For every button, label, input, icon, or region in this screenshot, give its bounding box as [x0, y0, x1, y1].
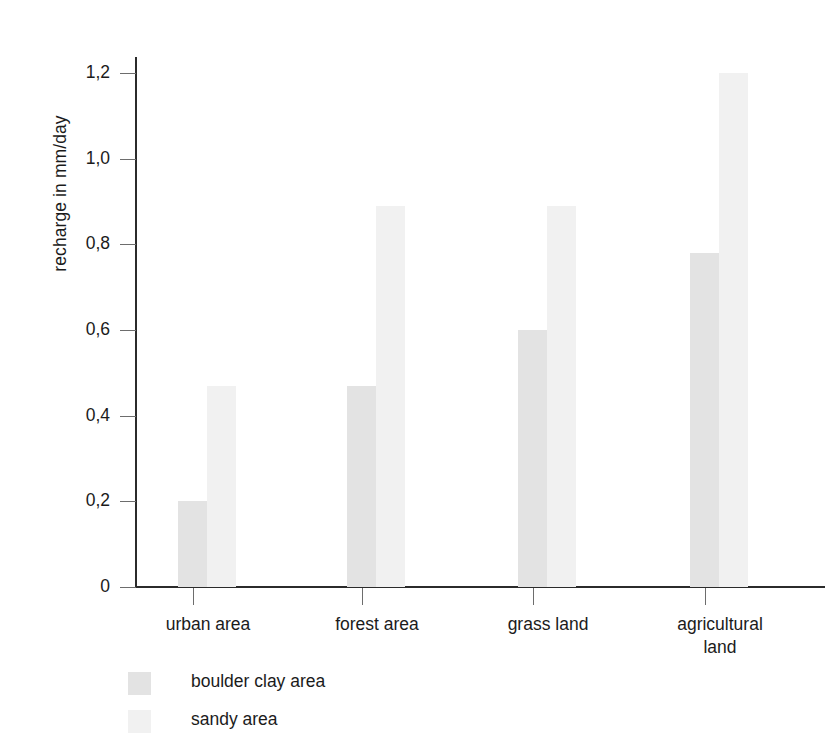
- x-axis-label-line: forest area: [282, 613, 472, 636]
- x-axis-label-agricultural-land: agriculturalland: [625, 613, 815, 659]
- y-axis-tick: [120, 587, 136, 588]
- x-axis-label-forest-area: forest area: [282, 613, 472, 636]
- x-axis-label-line: agricultural: [625, 613, 815, 636]
- bar-urban-area-boulder-clay-area: [178, 501, 207, 587]
- x-axis-label-line: grass land: [453, 613, 643, 636]
- x-axis-label-line: urban area: [113, 613, 303, 636]
- legend-swatch-icon: [128, 710, 151, 733]
- x-axis-label-line: land: [625, 636, 815, 659]
- bars-layer: [0, 0, 832, 587]
- bar-urban-area-sandy-area: [207, 386, 236, 587]
- x-axis-label-urban-area: urban area: [113, 613, 303, 636]
- bar-grass-land-sandy-area: [547, 206, 576, 587]
- bar-grass-land-boulder-clay-area: [518, 330, 547, 587]
- recharge-bar-chart: recharge in mm/day 00,20,40,60,81,01,2 u…: [0, 0, 832, 751]
- x-axis-tick: [362, 588, 363, 605]
- bar-forest-area-sandy-area: [376, 206, 405, 587]
- bar-agricultural-land-boulder-clay-area: [690, 253, 719, 587]
- x-axis-tick: [193, 588, 194, 605]
- legend-swatch-icon: [128, 672, 151, 695]
- bar-forest-area-boulder-clay-area: [347, 386, 376, 587]
- legend-label: boulder clay area: [191, 671, 325, 692]
- x-axis-tick: [533, 588, 534, 605]
- x-axis-label-grass-land: grass land: [453, 613, 643, 636]
- bar-agricultural-land-sandy-area: [719, 73, 748, 587]
- legend-label: sandy area: [191, 709, 278, 730]
- x-axis-tick: [705, 588, 706, 605]
